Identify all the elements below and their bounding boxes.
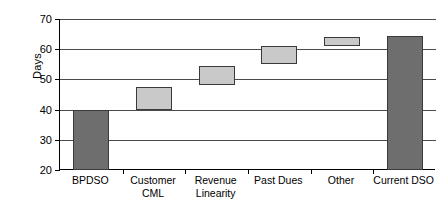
gridline-50 [60, 79, 436, 80]
y-tick-70 [55, 19, 60, 20]
x-axis-label-line: Revenue [195, 174, 237, 186]
gridline-30 [60, 140, 436, 141]
x-axis-label-bpdso: BPDSO [72, 174, 109, 187]
bar-other [324, 37, 360, 46]
x-axis-label-line: Current DSO [373, 174, 434, 186]
y-tick-40 [55, 110, 60, 111]
y-tick-label-20: 20 [40, 164, 52, 176]
x-axis-label-other: Other [328, 174, 354, 187]
x-axis-label-line: CML [130, 187, 176, 200]
bar-revenue-linearity [199, 66, 235, 86]
bar-current-dso [387, 36, 423, 170]
gridline-70 [60, 19, 436, 20]
x-axis-labels: BPDSOCustomerCMLRevenueLinearityPast Due… [59, 174, 435, 212]
y-tick-label-50: 50 [40, 73, 52, 85]
y-tick-label-70: 70 [40, 13, 52, 25]
bar-bpdso [73, 110, 109, 170]
x-axis-label-line: Linearity [195, 187, 237, 200]
waterfall-chart: Days 203040506070 BPDSOCustomerCMLRevenu… [0, 0, 447, 213]
y-tick-label-30: 30 [40, 134, 52, 146]
x-axis-label-line: Past Dues [254, 174, 302, 186]
y-axis-title: Days [31, 31, 43, 101]
y-tick-20 [55, 170, 60, 171]
bar-customer-cml [136, 87, 172, 110]
x-axis-label-past-dues: Past Dues [254, 174, 302, 187]
y-tick-label-60: 60 [40, 43, 52, 55]
y-tick-60 [55, 49, 60, 50]
x-axis-label-customer-cml: CustomerCML [130, 174, 176, 200]
gridline-40 [60, 110, 436, 111]
plot-area: 203040506070 [59, 19, 435, 170]
x-axis-label-line: Customer [130, 174, 176, 186]
bar-past-dues [261, 46, 297, 64]
y-tick-50 [55, 79, 60, 80]
gridline-60 [60, 49, 436, 50]
x-axis-label-current-dso: Current DSO [373, 174, 434, 187]
x-axis-label-line: BPDSO [72, 174, 109, 186]
x-axis-label-revenue-linearity: RevenueLinearity [195, 174, 237, 200]
y-tick-label-40: 40 [40, 104, 52, 116]
x-axis-label-line: Other [328, 174, 354, 186]
y-tick-30 [55, 140, 60, 141]
